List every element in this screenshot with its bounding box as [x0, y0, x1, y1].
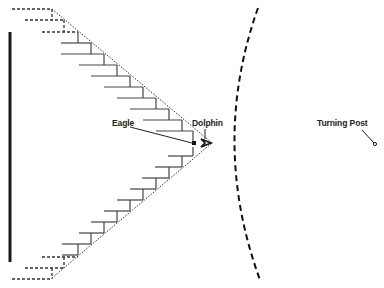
bottom-dashed-steps	[12, 257, 78, 279]
top-dashed-steps	[12, 9, 78, 32]
turn-arc	[234, 8, 260, 280]
dolphin-label: Dolphin	[192, 118, 223, 128]
turning-post-marker	[373, 142, 376, 145]
turning-post-pointer-line	[362, 130, 374, 143]
turning-post-label: Turning Post	[317, 118, 368, 128]
eagle-pointer-line	[130, 127, 192, 143]
eagle-label: Eagle	[112, 118, 134, 128]
diagram-canvas	[0, 0, 384, 288]
eagle-marker	[192, 141, 196, 145]
bottom-solid-steps	[62, 147, 193, 255]
dolphin-marker	[201, 139, 211, 147]
formation-boundary-bottom	[52, 143, 212, 278]
